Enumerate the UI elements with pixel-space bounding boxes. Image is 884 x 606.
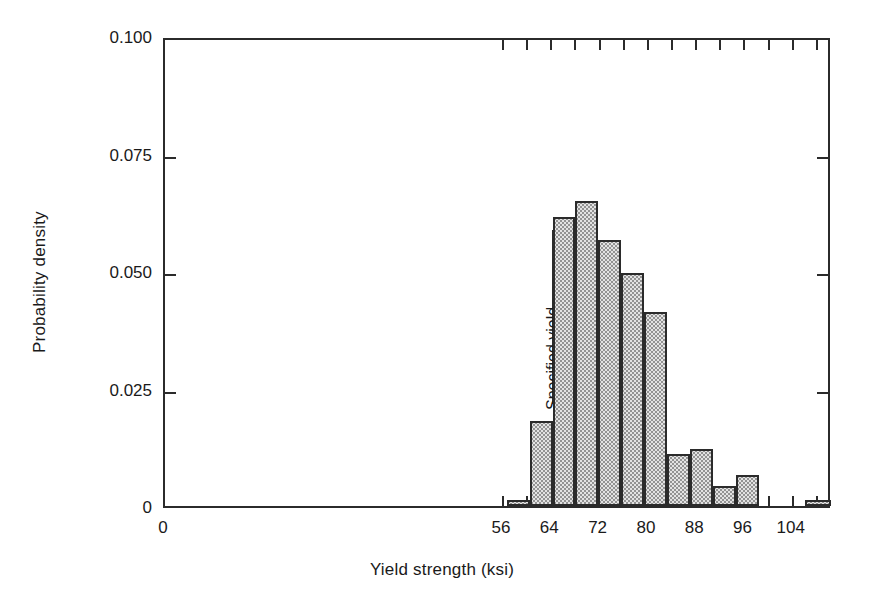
x-tick-label: 56 — [492, 518, 511, 538]
x-tick-label: 88 — [685, 518, 704, 538]
histogram-bar — [575, 201, 598, 507]
histogram-bar — [713, 486, 736, 506]
x-tick-label: 72 — [588, 518, 607, 538]
histogram-bar — [553, 217, 576, 506]
y-tick-label: 0.025 — [40, 381, 152, 401]
histogram-bar — [805, 500, 831, 506]
histogram-bar — [507, 500, 530, 506]
x-axis-title: Yield strength (ksi) — [0, 560, 884, 580]
histogram-bar — [598, 240, 621, 506]
x-tick-label: 0 — [158, 518, 167, 538]
histogram-bar — [736, 475, 759, 506]
histogram-bar — [530, 421, 553, 506]
histogram-bar — [667, 454, 690, 506]
figure-canvas: Probability density 00.0250.0500.0750.10… — [0, 0, 884, 606]
histogram-bar — [621, 273, 644, 506]
x-tick-label: 64 — [540, 518, 559, 538]
plot-area: Specified yield — [163, 38, 830, 508]
histogram-bar — [690, 449, 713, 506]
y-tick-label: 0.100 — [40, 28, 152, 48]
y-tick-label: 0 — [40, 498, 152, 518]
x-tick-label: 104 — [777, 518, 805, 538]
x-tick-label: 96 — [733, 518, 752, 538]
x-tick-label: 80 — [636, 518, 655, 538]
histogram-bars — [165, 40, 828, 506]
histogram-bar — [644, 312, 667, 506]
y-tick-label: 0.050 — [40, 263, 152, 283]
y-tick-label: 0.075 — [40, 146, 152, 166]
